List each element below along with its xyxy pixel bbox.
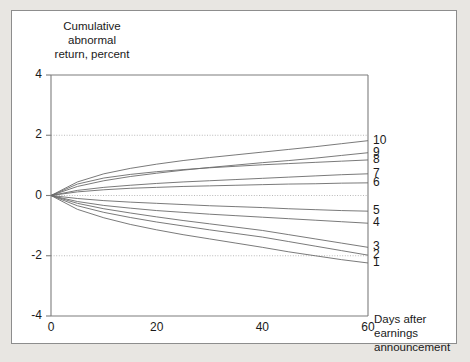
series-line-9 (51, 153, 368, 196)
series-line-5 (51, 196, 368, 212)
xtick-label-0: 0 (38, 320, 64, 334)
figure-frame: Cumulative abnormal return, percent Days… (11, 10, 457, 344)
gridlines (51, 135, 368, 256)
series-line-4 (51, 196, 368, 224)
xtick-label-20: 20 (144, 320, 170, 334)
series-label-8: 8 (373, 152, 393, 166)
ytick-label-4: 4 (20, 67, 42, 81)
ytick-label-2: 2 (20, 127, 42, 141)
series-line-6 (51, 183, 368, 196)
ytick-label-0: 0 (20, 188, 42, 202)
series-line-7 (51, 174, 368, 196)
data-series (51, 141, 368, 263)
series-label-1: 1 (373, 255, 393, 269)
series-label-4: 4 (373, 215, 393, 229)
xtick-label-60: 60 (355, 320, 381, 334)
axis-ticks (46, 75, 51, 316)
xtick-label-40: 40 (249, 320, 275, 334)
series-line-3 (51, 196, 368, 248)
series-label-6: 6 (373, 175, 393, 189)
ytick-label--2: -2 (20, 248, 42, 262)
